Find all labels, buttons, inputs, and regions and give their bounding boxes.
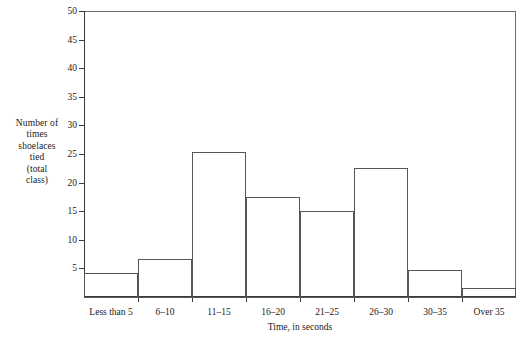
y-axis-title-line: (total (0, 164, 74, 175)
y-tick-mark (79, 40, 84, 41)
y-axis-title-line: shoelaces (0, 141, 74, 152)
x-tick-label: 11–15 (207, 307, 230, 317)
x-tick-label: Less than 5 (89, 307, 132, 317)
bar (192, 152, 246, 298)
x-tick-label: Over 35 (474, 307, 505, 317)
y-axis-title-line: class) (0, 175, 74, 186)
bar (462, 288, 516, 298)
y-tick-mark (79, 97, 84, 98)
y-tick-label: 15 (68, 206, 78, 216)
plot-area: 5101520253035404550 Less than 56–1011–15… (84, 11, 516, 297)
bar (300, 211, 354, 298)
y-tick-label: 5 (72, 263, 77, 273)
y-axis-title-line: times (0, 129, 74, 140)
axis-top-spine (84, 11, 516, 12)
x-tick-label: 21–25 (315, 307, 339, 317)
bar (138, 259, 192, 298)
x-tick-label: 16–20 (261, 307, 285, 317)
y-axis-line (84, 11, 85, 297)
bar (408, 270, 462, 298)
y-tick-mark (79, 268, 84, 269)
y-tick-label: 25 (68, 149, 78, 159)
bar (354, 168, 408, 298)
y-tick-mark (79, 183, 84, 184)
bar (246, 197, 300, 298)
y-axis-title-line: tied (0, 152, 74, 163)
histogram-figure: Number of times shoelaces tied (total cl… (0, 0, 524, 347)
y-tick-mark (79, 154, 84, 155)
x-axis-title: Time, in seconds (84, 322, 516, 332)
y-axis-title: Number of times shoelaces tied (total cl… (0, 118, 74, 186)
axis-right-spine (515, 11, 516, 297)
y-tick-mark (79, 125, 84, 126)
y-tick-label: 50 (68, 6, 78, 16)
y-tick-label: 10 (68, 235, 78, 245)
y-tick-label: 40 (68, 63, 78, 73)
bar (84, 273, 138, 298)
y-axis-title-line: Number of (0, 118, 74, 129)
y-tick-label: 35 (68, 92, 78, 102)
y-tick-label: 30 (68, 120, 78, 130)
x-tick-label: 30–35 (423, 307, 447, 317)
x-tick-label: 26–30 (369, 307, 393, 317)
y-tick-label: 20 (68, 178, 78, 188)
x-tick-label: 6–10 (156, 307, 175, 317)
y-tick-mark (79, 240, 84, 241)
y-tick-mark (79, 68, 84, 69)
y-tick-label: 45 (68, 35, 78, 45)
y-tick-mark (79, 211, 84, 212)
y-tick-mark (79, 11, 84, 12)
